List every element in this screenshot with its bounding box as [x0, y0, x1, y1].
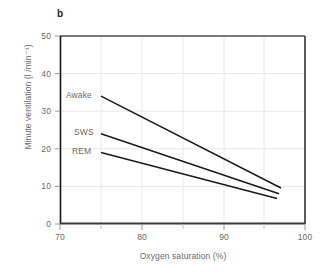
x-axis-title: Oxygen saturation (%)	[60, 251, 306, 261]
x-tick-label-80: 80	[127, 232, 157, 242]
y-tick-label-20: 20	[29, 144, 51, 154]
series-line-sws	[101, 134, 279, 194]
y-tick-label-40: 40	[29, 69, 51, 79]
y-tick-label-50: 50	[29, 31, 51, 41]
series-label-sws: SWS	[74, 127, 94, 137]
y-tick-label-10: 10	[29, 181, 51, 191]
x-tick-label-100: 100	[290, 232, 320, 242]
series-line-rem	[101, 153, 277, 199]
series-label-rem: REM	[72, 146, 91, 156]
figure-panel-b: b	[0, 0, 334, 275]
series-label-awake: Awake	[66, 90, 92, 100]
y-tick-label-0: 0	[29, 219, 51, 229]
y-axis-ticks	[55, 36, 60, 224]
x-tick-label-90: 90	[209, 232, 239, 242]
y-tick-label-30: 30	[29, 106, 51, 116]
x-tick-label-70: 70	[45, 232, 75, 242]
x-axis-ticks	[60, 224, 305, 230]
